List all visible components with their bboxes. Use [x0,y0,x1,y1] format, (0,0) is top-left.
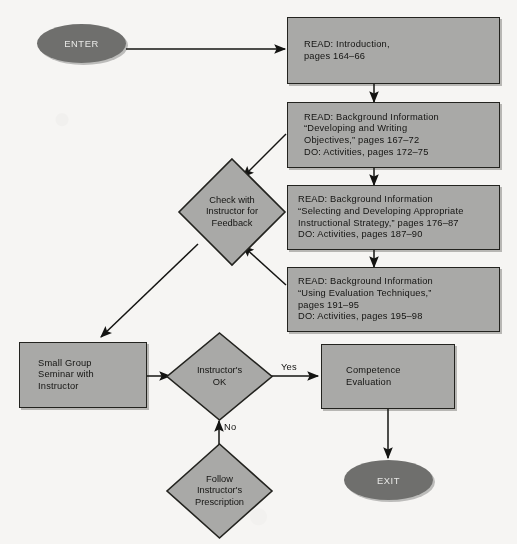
node-read-strategy-label: READ: Background Information “Selecting … [288,194,464,240]
node-read-objectives-label: READ: Background Information “Developing… [288,112,439,158]
node-enter[interactable]: ENTER [37,24,126,63]
node-small-group-label: Small Group Seminar with Instructor [20,358,94,393]
node-read-intro[interactable]: READ: Introduction, pages 164–66 [287,17,500,84]
node-read-objectives[interactable]: READ: Background Information “Developing… [287,102,500,168]
node-exit[interactable]: EXIT [344,460,433,500]
flowchart-canvas: ENTER READ: Introduction, pages 164–66 R… [0,0,517,544]
node-read-evaluation[interactable]: READ: Background Information “Using Eval… [287,267,500,332]
node-read-intro-label: READ: Introduction, pages 164–66 [288,39,390,62]
node-small-group[interactable]: Small Group Seminar with Instructor [19,342,147,408]
node-competence-evaluation-label: Competence Evaluation [322,365,401,388]
node-follow-prescription[interactable]: Follow Instructor's Prescription [164,442,275,540]
node-read-strategy[interactable]: READ: Background Information “Selecting … [287,185,500,250]
node-exit-label: EXIT [377,475,400,486]
node-competence-evaluation[interactable]: Competence Evaluation [321,344,455,409]
node-enter-label: ENTER [64,38,99,49]
edge-label-no: No [224,421,236,432]
node-instructor-ok[interactable]: Instructor's OK [164,331,275,422]
edge-label-yes: Yes [281,361,297,372]
follow-prescription-diamond-shape [164,442,275,540]
check-instructor-diamond-shape [176,156,288,268]
node-check-instructor[interactable]: Check with Instructor for Feedback [176,156,288,268]
node-read-evaluation-label: READ: Background Information “Using Eval… [288,276,433,322]
instructor-ok-diamond-shape [164,331,275,422]
